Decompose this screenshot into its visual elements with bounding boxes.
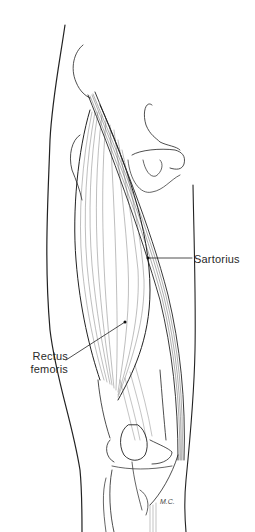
label-rectus-femoris: Rectus femoris: [16, 350, 68, 376]
femur-shaft-right: [160, 370, 166, 440]
femoral-condyle-lateral: [150, 440, 172, 464]
rectus-femoris-outline-left: [75, 110, 100, 380]
femur-shaft-left: [98, 380, 110, 438]
label-sartorius: Sartorius: [194, 253, 240, 266]
anatomical-illustration: [0, 0, 255, 532]
pelvis-ilium: [144, 104, 180, 150]
joint-line: [112, 466, 172, 469]
tibia-left: [110, 470, 114, 532]
patella: [121, 425, 148, 460]
pelvis-pubis: [132, 149, 185, 169]
label-rectus-line2: femoris: [16, 363, 68, 376]
sartorius-pointer-dot: [147, 257, 150, 260]
tibial-tuberosity: [140, 490, 148, 515]
artist-signature: M.C.: [160, 498, 175, 505]
label-rectus-line1: Rectus: [16, 350, 68, 363]
greater-trochanter: [73, 45, 90, 98]
thigh-outline-lateral: [47, 25, 82, 532]
thigh-outline-medial: [185, 185, 195, 532]
rectus-femoris-pointer-dot: [124, 321, 127, 324]
fibula: [103, 478, 106, 532]
obturator: [143, 160, 162, 176]
femoral-condyle-medial: [107, 440, 114, 462]
